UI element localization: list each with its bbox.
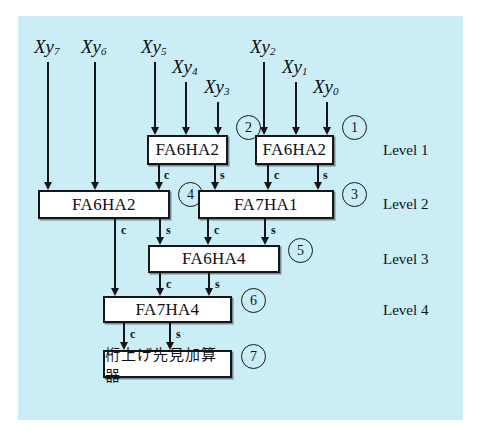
edge-b4-c-line [114,219,116,289]
block-FA6HA2-b1[interactable]: FA6HA2 [255,135,334,165]
figure-root: Xy7Xy6Xy5Xy4Xy3Xy2Xy1Xy0cscscscscscsFA6H… [0,0,481,437]
edge-b4-s-line [159,219,161,238]
edge-b3-s-arrowhead [261,237,269,245]
edge-b5-c-arrowhead [156,288,164,296]
edge-b5-s-arrowhead [205,288,213,296]
edge-b2-s-arrowhead [211,182,219,190]
input-xy4-arrowhead [182,127,190,135]
edge-b2-c-line [158,165,160,183]
input-label-xy7: Xy7 [34,36,60,58]
signal-label-b5-s: s [215,277,220,292]
edge-b3-c-line [207,219,209,238]
edge-b5-c-line [159,273,161,289]
signal-label-b4-c: c [121,223,126,238]
signal-label-b3-s: s [271,223,276,238]
signal-label-b5-c: c [166,277,171,292]
level-label-4: Level 4 [383,302,428,319]
signal-label-b4-s: s [166,223,171,238]
edge-b5-s-line [208,273,210,289]
edge-b3-s-line [264,219,266,238]
signal-label-b3-c: c [214,223,219,238]
marker-b3: 3 [342,182,367,207]
signal-label-b2-c: c [164,168,169,183]
edge-b3-c-arrowhead [204,237,212,245]
input-label-xy4: Xy4 [172,56,198,78]
input-xy6-line [94,62,96,183]
level-label-3: Level 3 [383,251,428,268]
edge-b2-s-line [214,165,216,183]
edge-b2-c-arrowhead [155,182,163,190]
edge-b6-c-line [123,323,125,343]
block-FA6HA4-b5[interactable]: FA6HA4 [148,245,280,273]
signal-label-b1-s: s [323,168,328,183]
input-xy1-line [295,82,297,128]
marker-b7: 7 [241,344,266,369]
level-label-2: Level 2 [383,196,428,213]
input-xy5-line [154,62,156,128]
block-FA6HA2-b4[interactable]: FA6HA2 [38,190,170,219]
edge-b6-s-line [169,323,171,343]
signal-label-b6-c: c [130,327,135,342]
input-xy3-line [217,102,219,128]
input-xy5-arrowhead [151,127,159,135]
input-xy7-line [47,62,49,183]
input-label-xy5: Xy5 [141,36,167,58]
marker-b6: 6 [241,288,266,313]
input-label-xy1: Xy1 [282,56,308,78]
input-xy2-line [263,62,265,128]
block-FA7HA4-b6[interactable]: FA7HA4 [103,296,232,323]
input-label-xy6: Xy6 [81,36,107,58]
input-label-xy0: Xy0 [313,76,339,98]
signal-label-b2-s: s [220,168,225,183]
signal-label-b1-c: c [274,168,279,183]
signal-label-b6-s: s [176,327,181,342]
edge-b1-c-line [267,165,269,183]
block-桁上げ先見加算器-b7[interactable]: 桁上げ先見加算器 [103,350,232,378]
edge-b4-c-arrowhead [111,288,119,296]
block-FA7HA1-b3[interactable]: FA7HA1 [198,190,334,219]
input-label-xy3: Xy3 [204,76,230,98]
edge-b1-s-arrowhead [314,182,322,190]
input-xy3-arrowhead [214,127,222,135]
edge-b4-s-arrowhead [156,237,164,245]
input-xy0-arrowhead [323,127,331,135]
block-FA6HA2-b2[interactable]: FA6HA2 [147,135,228,165]
edge-b1-s-line [317,165,319,183]
input-label-xy2: Xy2 [250,36,276,58]
input-xy6-arrowhead [91,182,99,190]
level-label-1: Level 1 [383,142,428,159]
marker-b5: 5 [288,238,313,263]
input-xy0-line [326,102,328,128]
input-xy4-line [185,82,187,128]
edge-b1-c-arrowhead [264,182,272,190]
input-xy1-arrowhead [292,127,300,135]
input-xy7-arrowhead [44,182,52,190]
marker-b1: 1 [342,115,367,140]
